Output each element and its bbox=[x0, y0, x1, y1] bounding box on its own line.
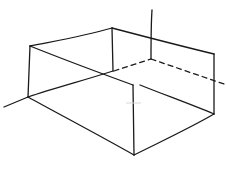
back-inner-vertical bbox=[112, 28, 113, 71]
hidden-edge-right bbox=[151, 59, 224, 84]
diagonal-top-edge bbox=[30, 46, 214, 114]
front-vertical bbox=[133, 85, 134, 155]
top-back-right-edge bbox=[112, 28, 214, 54]
box-sketch-canvas bbox=[0, 0, 226, 169]
hidden-edge-left bbox=[114, 59, 151, 71]
bottom-left-edge bbox=[28, 97, 134, 155]
left-tail bbox=[4, 97, 28, 107]
base-back-edge bbox=[28, 71, 113, 97]
axis-vertical-top bbox=[151, 10, 152, 59]
top-back-left-edge bbox=[30, 28, 112, 46]
bottom-right-edge bbox=[134, 114, 214, 155]
left-front-vertical bbox=[28, 46, 30, 97]
